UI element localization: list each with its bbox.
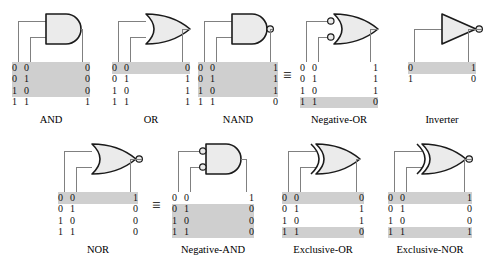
truth-output-cell: 1 <box>222 74 278 86</box>
truth-input-cell: 0 <box>70 192 82 204</box>
truth-table-row: 010 <box>58 204 138 216</box>
truth-table-or: 000011101111 <box>112 62 190 108</box>
truth-table-row: 111 <box>12 97 90 109</box>
truth-table-row: 01 <box>408 62 476 74</box>
gate-caption-negative-and: Negative-AND <box>172 244 254 255</box>
truth-output-cell: 1 <box>324 85 378 97</box>
truth-table-row: 001 <box>388 192 472 204</box>
gate-symbol-or <box>112 10 208 62</box>
gate-unit-exclusive-or: 000011101110 <box>282 140 364 238</box>
truth-table-row: 001 <box>172 192 254 204</box>
gate-unit-or: 000011101111 <box>112 10 190 108</box>
gate-body-nand <box>232 14 267 44</box>
truth-input-cell: 0 <box>312 62 324 74</box>
truth-output-cell: 0 <box>412 204 472 216</box>
truth-input-cell: 1 <box>70 204 82 216</box>
truth-input-cell: 1 <box>172 215 184 227</box>
truth-input-cell: 0 <box>408 62 420 74</box>
truth-input-cell: 1 <box>294 227 306 239</box>
truth-output-cell: 1 <box>136 85 190 97</box>
truth-input-cell: 0 <box>112 74 124 86</box>
truth-output-cell: 0 <box>36 62 90 74</box>
equivalence-symbol-nand-equals-negative-or: ≡ <box>283 68 291 83</box>
truth-input-cell: 1 <box>184 227 196 239</box>
truth-input-cell: 0 <box>58 192 70 204</box>
truth-table-negative-or: 001011101110 <box>300 62 378 108</box>
truth-input-cell: 1 <box>294 204 306 216</box>
truth-output-cell: 0 <box>306 227 364 239</box>
gate-caption-inverter: Inverter <box>408 114 476 125</box>
truth-output-cell: 1 <box>222 85 278 97</box>
equivalence-symbol-nor-equals-negative-and: ≡ <box>152 198 160 213</box>
truth-table-row: 100 <box>12 85 90 97</box>
truth-input-cell: 0 <box>388 192 400 204</box>
truth-input-cell: 1 <box>312 74 324 86</box>
gate-symbol-inverter <box>408 10 493 62</box>
truth-output-cell: 0 <box>82 227 138 239</box>
gate-body-negative-and <box>206 144 241 174</box>
truth-input-cell: 1 <box>300 97 312 109</box>
truth-table-row: 011 <box>198 74 278 86</box>
truth-output-cell: 0 <box>196 227 254 239</box>
xor-arc <box>417 144 425 174</box>
gate-caption-exclusive-nor: Exclusive-NOR <box>388 244 472 255</box>
truth-table-inverter: 0110 <box>408 62 476 85</box>
truth-output-cell: 0 <box>306 192 364 204</box>
gate-body-nor <box>92 144 136 174</box>
truth-output-cell: 0 <box>36 74 90 86</box>
truth-table-and: 000010100111 <box>12 62 90 108</box>
truth-input-cell: 1 <box>70 227 82 239</box>
truth-input-cell: 0 <box>172 192 184 204</box>
truth-input-cell: 1 <box>112 85 124 97</box>
truth-input-cell: 1 <box>124 74 136 86</box>
truth-input-cell: 0 <box>58 204 70 216</box>
truth-table-row: 010 <box>388 204 472 216</box>
truth-input-cell: 0 <box>124 62 136 74</box>
truth-input-cell: 0 <box>210 62 222 74</box>
truth-input-cell: 1 <box>12 97 24 109</box>
truth-output-cell: 0 <box>136 62 190 74</box>
truth-output-cell: 1 <box>412 192 472 204</box>
truth-input-cell: 0 <box>12 74 24 86</box>
input-inversion-bubble-icon <box>200 164 206 170</box>
gate-unit-nor: 001010100110 <box>58 140 138 238</box>
gate-symbol-negative-or <box>300 10 396 62</box>
gate-symbol-negative-and <box>172 140 268 192</box>
gate-caption-negative-or: Negative-OR <box>300 114 378 125</box>
truth-input-cell: 0 <box>198 62 210 74</box>
gate-body-exclusive-nor <box>422 144 466 174</box>
gate-unit-nand: 001011101110 <box>198 10 278 108</box>
truth-input-cell: 1 <box>388 227 400 239</box>
truth-table-row: 001 <box>198 62 278 74</box>
logic-gates-figure: 000010100111AND000011101111OR00101110111… <box>0 0 493 260</box>
truth-input-cell: 0 <box>300 74 312 86</box>
truth-input-cell: 1 <box>24 74 36 86</box>
truth-output-cell: 0 <box>324 97 378 109</box>
truth-input-cell: 1 <box>400 227 412 239</box>
truth-output-cell: 1 <box>82 192 138 204</box>
truth-output-cell: 1 <box>306 215 364 227</box>
truth-output-cell: 0 <box>420 74 476 86</box>
truth-input-cell: 1 <box>112 97 124 109</box>
truth-input-cell: 0 <box>300 62 312 74</box>
truth-output-cell: 1 <box>196 192 254 204</box>
truth-table-row: 011 <box>112 74 190 86</box>
truth-output-cell: 1 <box>412 227 472 239</box>
truth-table-row: 110 <box>198 97 278 109</box>
truth-table-row: 110 <box>58 227 138 239</box>
truth-output-cell: 1 <box>222 62 278 74</box>
truth-table-row: 111 <box>112 97 190 109</box>
gate-caption-nor: NOR <box>58 244 138 255</box>
truth-input-cell: 1 <box>282 215 294 227</box>
truth-output-cell: 0 <box>196 215 254 227</box>
truth-table-row: 101 <box>300 85 378 97</box>
truth-input-cell: 0 <box>112 62 124 74</box>
gate-caption-exclusive-or: Exclusive-OR <box>282 244 364 255</box>
truth-input-cell: 1 <box>198 97 210 109</box>
truth-table-row: 100 <box>172 215 254 227</box>
gate-unit-exclusive-nor: 001010100111 <box>388 140 472 238</box>
truth-output-cell: 1 <box>136 97 190 109</box>
truth-input-cell: 1 <box>388 215 400 227</box>
truth-table-row: 010 <box>12 74 90 86</box>
truth-input-cell: 0 <box>24 62 36 74</box>
